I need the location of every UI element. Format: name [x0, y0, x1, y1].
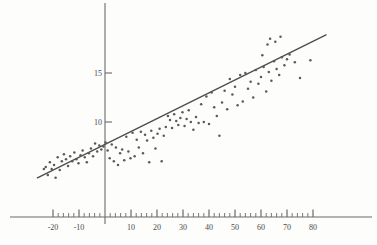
scatter-point — [226, 108, 229, 111]
scatter-point — [269, 37, 272, 40]
scatter-point — [100, 148, 103, 151]
scatter-point — [54, 177, 57, 180]
x-tick-label: 50 — [231, 223, 239, 232]
scatter-point — [203, 121, 206, 124]
scatter-point — [177, 124, 180, 127]
scatter-point — [283, 64, 286, 67]
scatter-point — [119, 152, 122, 155]
scatter-point — [88, 152, 91, 155]
scatter-point — [115, 146, 118, 149]
scatter-point — [160, 160, 163, 163]
y-axis-major-ticks — [105, 73, 112, 122]
scatter-point — [281, 56, 284, 59]
scatter-point — [275, 68, 278, 71]
scatter-point — [154, 147, 157, 150]
scatter-point — [242, 100, 245, 103]
scatter-point — [50, 168, 53, 171]
scatter-point — [175, 120, 178, 123]
x-axis-major-ticks — [53, 210, 313, 218]
scatter-point — [260, 76, 263, 79]
scatter-point — [79, 154, 82, 157]
scatter-point — [135, 138, 138, 141]
x-tick-label: 20 — [153, 223, 161, 232]
plot-canvas: -20-101020304050607080 1015 — [0, 0, 377, 245]
scatter-point — [210, 91, 213, 94]
scatter-point — [192, 129, 195, 132]
scatter-point — [127, 150, 130, 153]
scatter-point — [286, 58, 289, 61]
scatter-point — [231, 93, 234, 96]
scatter-point — [75, 158, 78, 161]
scatter-point — [239, 74, 242, 77]
scatter-point — [288, 53, 291, 56]
scatter-point — [96, 150, 99, 153]
scatter-point — [123, 159, 126, 162]
scatter-point — [190, 121, 193, 124]
x-axis-tick-labels: -20-101020304050607080 — [48, 223, 317, 232]
scatter-point — [265, 90, 268, 93]
scatter-point — [274, 40, 277, 43]
scatter-point — [213, 106, 216, 109]
scatter-point — [71, 160, 74, 163]
scatter-point — [234, 85, 237, 88]
x-tick-label: -20 — [48, 223, 59, 232]
scatter-point — [90, 147, 93, 150]
scatter-point — [49, 161, 52, 164]
scatter-point — [187, 109, 190, 112]
scatter-point — [273, 60, 276, 63]
scatter-point — [252, 96, 255, 99]
scatter-point — [108, 157, 111, 160]
scatter-point — [83, 156, 86, 159]
scatter-point — [309, 59, 312, 62]
scatter-point — [61, 160, 64, 163]
scatter-point — [133, 155, 136, 158]
scatter-point — [86, 161, 89, 164]
scatter-point — [262, 66, 265, 69]
scatter-point — [294, 61, 297, 64]
scatter-point — [229, 78, 232, 81]
scatter-point — [69, 155, 72, 158]
scatter-point — [236, 104, 239, 107]
scatter-point — [56, 156, 59, 159]
scatter-point — [138, 146, 141, 149]
scatter-plot-figure: -20-101020304050607080 1015 — [0, 0, 377, 245]
scatter-point — [150, 130, 153, 133]
scatter-point — [98, 144, 101, 147]
scatter-point — [59, 169, 62, 172]
scatter-point — [111, 143, 114, 146]
scatter-point — [279, 35, 282, 38]
y-tick-label: 15 — [94, 69, 102, 78]
scatter-point — [43, 168, 46, 171]
scatter-point — [169, 119, 172, 122]
scatter-point — [197, 122, 200, 125]
scatter-point — [218, 134, 221, 137]
scatter-point — [299, 77, 302, 80]
scatter-point — [63, 153, 66, 156]
scatter-point — [152, 136, 155, 139]
scatter-point — [200, 103, 203, 106]
scatter-point — [266, 43, 269, 46]
scatter-point — [73, 151, 76, 154]
scatter-point — [221, 101, 224, 104]
scatter-points-group — [43, 35, 312, 179]
scatter-point — [244, 72, 247, 75]
scatter-point — [65, 158, 68, 161]
x-tick-label: -10 — [74, 223, 85, 232]
scatter-point — [67, 165, 70, 168]
scatter-point — [216, 115, 219, 118]
scatter-point — [144, 133, 147, 136]
scatter-point — [165, 126, 168, 128]
scatter-point — [163, 134, 166, 137]
scatter-point — [81, 149, 84, 152]
scatter-point — [77, 162, 80, 165]
x-tick-label: 40 — [205, 223, 213, 232]
scatter-point — [142, 152, 145, 155]
scatter-point — [208, 123, 211, 126]
scatter-point — [257, 83, 260, 86]
scatter-point — [181, 111, 184, 114]
scatter-point — [261, 54, 264, 57]
scatter-point — [102, 145, 105, 148]
x-tick-label: 30 — [179, 223, 187, 232]
scatter-point — [44, 166, 47, 169]
scatter-point — [156, 133, 159, 136]
